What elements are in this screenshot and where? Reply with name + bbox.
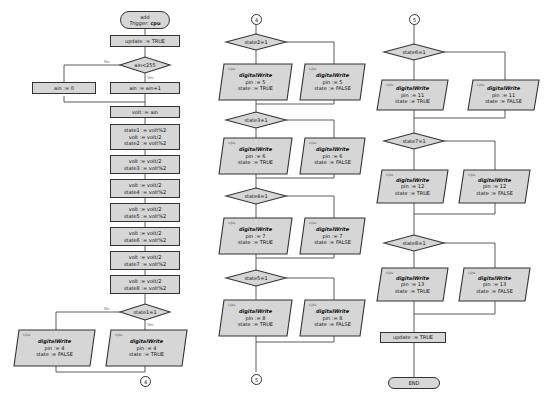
state-arg: state := FALSE (485, 98, 522, 105)
yes-label: Yes (147, 75, 153, 80)
block2-node: volt := volt/2state3 := volt%2 (110, 155, 180, 174)
ain-reset-text: ain := 0 (54, 85, 74, 92)
volt-assign-text: volt := ain (132, 109, 158, 116)
update-text: update := TRUE (393, 334, 433, 341)
dw-pin12-false: cpudigitalWritepin := 12state := FALSE (459, 170, 530, 203)
state-arg: state := TRUE (238, 321, 273, 328)
digitalwrite-pin4-false: cpu digitalWrite pin := 4 state := FALSE (14, 330, 95, 366)
cpu-tag: cpu (228, 302, 235, 309)
state-arg: state := FALSE (314, 159, 351, 166)
cpu-tag: cpu (228, 220, 235, 227)
end-text: END (409, 380, 420, 387)
start-trigger: Trigger: cpu (130, 20, 161, 27)
decision-state1: state1=1 (125, 308, 165, 317)
decision-state5: state5=1 (236, 274, 276, 283)
connector-4-out: 4 (140, 376, 151, 387)
cpu-tag: cpu (228, 140, 235, 147)
cond-text: state7=1 (402, 138, 425, 145)
line: state7 := volt%2 (124, 261, 166, 268)
no-label: No (104, 306, 109, 311)
start-node: add Trigger: cpu (120, 11, 170, 29)
cpu-tag: cpu (386, 270, 393, 277)
decision-state6: state6=1 (394, 48, 434, 57)
connector-5-in: 5 (409, 14, 420, 25)
decision-state3: state3=1 (236, 116, 276, 125)
update-true-end-node: update := TRUE (380, 332, 446, 343)
decision-ain-label: ain<255 (125, 61, 165, 70)
cond-text: state8=1 (402, 240, 425, 247)
dw-pin7-true: cpudigitalWritepin := 7state := TRUE (219, 218, 292, 254)
ain-inc-node: ain := ain+1 (110, 82, 180, 94)
block5-node: volt := volt/2state6 := volt%2 (110, 227, 180, 246)
trigger-value: cpu (150, 20, 160, 26)
cpu-tag: cpu (115, 332, 122, 339)
cpu-tag: cpu (23, 332, 30, 339)
cpu-tag: cpu (468, 270, 475, 277)
state-arg: state := TRUE (395, 98, 430, 105)
ain-inc-text: ain := ain+1 (129, 85, 161, 92)
line: state2 := volt%2 (124, 140, 166, 147)
update-text: update := TRUE (125, 38, 165, 45)
yes-label: Yes (147, 322, 153, 327)
state-arg: state := FALSE (314, 239, 351, 246)
cpu-tag: cpu (468, 172, 475, 179)
trigger-label: Trigger: (130, 20, 149, 26)
cpu-tag: cpu (386, 82, 393, 89)
state-arg: state := TRUE (395, 190, 430, 197)
cond-text: state6=1 (402, 49, 425, 56)
state-arg: state := FALSE (314, 85, 351, 92)
state-arg: state := FALSE (476, 288, 513, 295)
cpu-tag: cpu (477, 82, 484, 89)
dw-pin5-true: cpudigitalWritepin := 5state := TRUE (219, 64, 292, 100)
dw-pin12-true: cpudigitalWritepin := 12state := TRUE (377, 170, 448, 203)
dw-pin6-true: cpudigitalWritepin := 6state := TRUE (219, 138, 292, 174)
dw-pin7-false: cpudigitalWritepin := 7state := FALSE (300, 218, 365, 254)
decision-state8: state8=1 (394, 239, 434, 248)
block6-node: volt := volt/2state7 := volt%2 (110, 251, 180, 270)
cond-ain-text: ain<255 (134, 62, 155, 69)
end-node: END (388, 377, 440, 389)
dw-pin11-true: cpudigitalWritepin := 11state := TRUE (377, 80, 448, 110)
dw-pin6-false: cpudigitalWritepin := 6state := FALSE (300, 138, 365, 174)
decision-state2: state2=1 (236, 38, 276, 47)
line: state5 := volt%2 (124, 213, 166, 220)
dw-pin8-true: cpudigitalWritepin := 8state := TRUE (219, 300, 292, 336)
cond-text: state1=1 (133, 309, 156, 316)
cond-text: state2=1 (244, 39, 267, 46)
block4-node: volt := volt/2state5 := volt%2 (110, 203, 180, 222)
line: state3 := volt%2 (124, 165, 166, 172)
ain-reset-node: ain := 0 (32, 82, 96, 94)
line: state8 := volt%2 (124, 285, 166, 292)
state-arg: state := FALSE (476, 190, 513, 197)
block1-node: state1 := volt%2volt := volt/2state2 := … (110, 124, 180, 150)
dw-pin11-false: cpudigitalWritepin := 11state := FALSE (468, 80, 539, 110)
cpu-tag: cpu (386, 172, 393, 179)
no-label: No (104, 59, 109, 64)
cond-text: state3=1 (244, 117, 267, 124)
state-arg: state := TRUE (238, 159, 273, 166)
decision-state4: state4=1 (236, 192, 276, 201)
connector-5-out: 5 (251, 374, 262, 385)
cond-text: state4=1 (244, 193, 267, 200)
dw-pin8-false: cpudigitalWritepin := 8state := FALSE (300, 300, 365, 336)
state-arg: state := FALSE (36, 351, 73, 358)
connector-4-in: 4 (251, 14, 262, 25)
state-arg: state := TRUE (395, 288, 430, 295)
decision-state7: state7=1 (394, 137, 434, 146)
block7-node: volt := volt/2state8 := volt%2 (110, 275, 180, 294)
update-true-node: update := TRUE (110, 35, 180, 47)
dw-pin5-false: cpudigitalWritepin := 5state := FALSE (300, 64, 365, 100)
state-arg: state := TRUE (129, 351, 164, 358)
state-arg: state := FALSE (314, 321, 351, 328)
dw-pin13-true: cpudigitalWritepin := 13state := TRUE (377, 268, 448, 301)
block3-node: volt := volt/2state4 := volt%2 (110, 179, 180, 198)
cpu-tag: cpu (228, 66, 235, 73)
cond-text: state5=1 (244, 275, 267, 282)
dw-pin13-false: cpudigitalWritepin := 13state := FALSE (459, 268, 530, 301)
state-arg: state := TRUE (238, 239, 273, 246)
state-arg: state := TRUE (238, 85, 273, 92)
digitalwrite-pin4-true: cpu digitalWrite pin := 4 state := TRUE (106, 330, 187, 366)
volt-assign-node: volt := ain (110, 106, 180, 118)
line: state4 := volt%2 (124, 189, 166, 196)
line: state6 := volt%2 (124, 237, 166, 244)
